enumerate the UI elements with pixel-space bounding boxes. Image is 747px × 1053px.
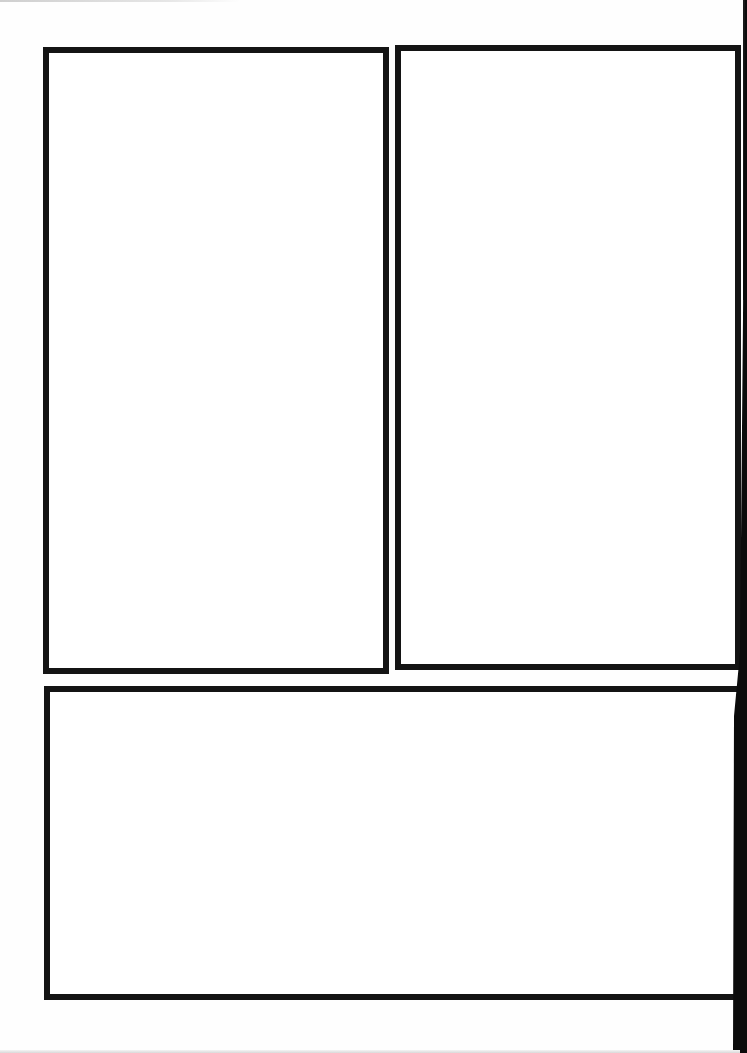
panel-top-right — [395, 45, 741, 670]
comic-page-sheet — [0, 0, 747, 1053]
panel-bottom-wide — [44, 686, 744, 1000]
scan-top-edge — [0, 0, 240, 2]
panel-top-left — [43, 47, 389, 674]
